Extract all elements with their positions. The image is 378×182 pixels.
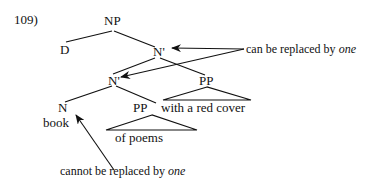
node-nbar-top: N': [153, 45, 165, 59]
node-np: NP: [104, 14, 121, 28]
pp-top-text: with a red cover: [161, 101, 245, 115]
syntax-tree-diagram: 109) NP D N' N' PP with a red cover N bo…: [0, 0, 378, 182]
n-word: book: [43, 116, 69, 130]
example-number: 109): [14, 13, 38, 27]
pp-inner-text: of poems: [115, 131, 163, 145]
node-n: N: [58, 101, 67, 115]
tree-lines: [0, 0, 378, 182]
annotation-not-replaceable: cannot be replaced by one: [60, 164, 185, 178]
node-pp-top: PP: [199, 74, 213, 88]
annotation-replaceable-text: can be replaced by: [246, 42, 339, 56]
node-pp-inner: PP: [133, 101, 147, 115]
annotation-not-replaceable-text: cannot be replaced by: [60, 164, 168, 178]
node-d: D: [60, 43, 69, 57]
annotation-replaceable: can be replaced by one: [246, 42, 356, 56]
node-nbar-inner: N': [108, 74, 120, 88]
annotation-replaceable-word: one: [339, 42, 356, 56]
annotation-not-replaceable-word: one: [168, 164, 185, 178]
